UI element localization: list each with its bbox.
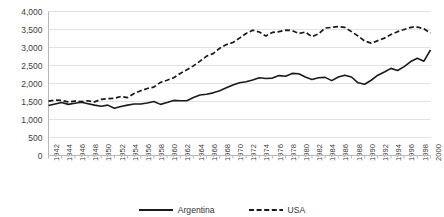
axis-lines: [49, 12, 431, 159]
legend-label: USA: [288, 205, 306, 215]
line-chart: 05001,0001,5002,0002,5003,0003,5004,000 …: [0, 0, 444, 217]
legend-label: Argentina: [178, 205, 215, 215]
series-line-usa: [49, 27, 431, 102]
data-series-group: [49, 27, 431, 109]
legend-swatch-solid: [139, 206, 173, 214]
plot-area: [0, 0, 444, 217]
legend-item-argentina[interactable]: Argentina: [139, 205, 215, 215]
gridlines: [49, 12, 431, 138]
legend-item-usa[interactable]: USA: [249, 205, 306, 215]
legend-swatch-dashed: [249, 206, 283, 214]
chart-legend: ArgentinaUSA: [0, 205, 444, 215]
